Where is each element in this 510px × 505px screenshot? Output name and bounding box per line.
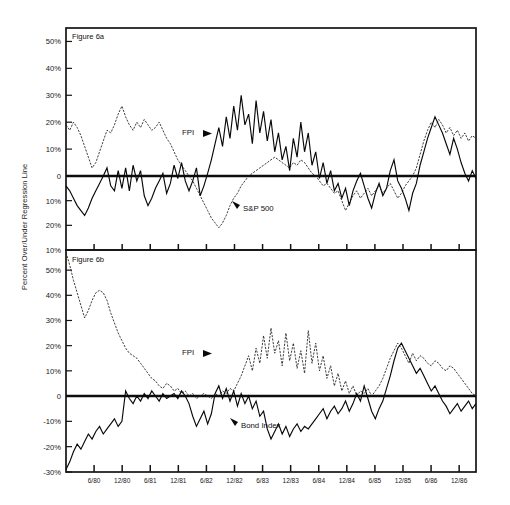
panel-b-label: Figure 6b — [72, 255, 104, 264]
panel-a-sp500-label: S&P 500 — [243, 204, 274, 213]
arrow-left-icon — [230, 418, 238, 426]
y-tick-label: 20% — [46, 342, 61, 351]
panel-b-series-bond-index-line — [66, 343, 476, 469]
panel-a-y-ticks: 50%40%30%20%10%010%20%10% — [46, 37, 72, 255]
y-tick-label: -30% — [43, 468, 61, 477]
x-tick-label: 6/86 — [425, 477, 438, 484]
y-axis-title: Percent Over/Under Regression Line — [20, 164, 29, 290]
x-tick-label: 12/84 — [339, 477, 356, 484]
y-tick-label: -20% — [43, 443, 61, 452]
y-tick-label: 10% — [46, 145, 61, 154]
x-tick-label: 12/85 — [395, 477, 412, 484]
panel-b-fpi-annotation: FPI — [182, 348, 212, 357]
x-tick-label: 12/83 — [283, 477, 300, 484]
panel-b-x-tick-labels: 6/8012/806/8112/816/8212/826/8312/836/84… — [88, 477, 468, 484]
figure-root: Percent Over/Under Regression Line Figur… — [0, 0, 510, 505]
x-tick-label: 6/81 — [144, 477, 157, 484]
panel-a-fpi-annotation: FPI — [182, 128, 212, 137]
y-axis-title-group: Percent Over/Under Regression Line — [20, 164, 29, 290]
x-tick-label: 12/81 — [170, 477, 187, 484]
y-tick-label: 20% — [46, 221, 61, 230]
y-tick-label: 10% — [46, 246, 61, 255]
y-tick-label: 0 — [57, 172, 61, 181]
panel-a: Figure 6a 50%40%30%20%10%010%20%10% FPI … — [46, 28, 476, 255]
panel-b-fpi-label: FPI — [182, 348, 194, 357]
x-tick-label: 6/83 — [256, 477, 269, 484]
arrow-left-icon — [232, 201, 240, 209]
x-tick-label: 6/85 — [369, 477, 382, 484]
y-tick-label: -10% — [43, 417, 61, 426]
y-tick-label: 40% — [46, 64, 61, 73]
y-tick-label: 10% — [46, 197, 61, 206]
panel-b-bond-annotation: Bond Index — [230, 418, 281, 430]
x-tick-label: 6/80 — [88, 477, 101, 484]
y-tick-label: 50% — [46, 37, 61, 46]
panel-b-bond-label: Bond Index — [241, 421, 281, 430]
y-tick-label: 30% — [46, 316, 61, 325]
panel-a-x-ticks — [94, 244, 459, 250]
y-tick-label: 50% — [46, 266, 61, 275]
y-tick-label: 0 — [57, 392, 61, 401]
panel-b-series-fpi-line — [66, 253, 476, 399]
x-tick-label: 12/82 — [226, 477, 243, 484]
arrow-right-icon — [203, 130, 212, 137]
x-tick-label: 12/80 — [114, 477, 131, 484]
y-tick-label: 20% — [46, 118, 61, 127]
panel-b: Figure 6b 50%40%30%20%10%0-10%-20%-30% 6… — [43, 250, 476, 484]
y-tick-label: 40% — [46, 291, 61, 300]
panel-b-x-ticks — [94, 465, 459, 472]
panel-a-fpi-label: FPI — [182, 128, 194, 137]
y-tick-label: 10% — [46, 367, 61, 376]
y-tick-label: 30% — [46, 91, 61, 100]
x-tick-label: 6/82 — [200, 477, 213, 484]
arrow-right-icon — [203, 350, 212, 357]
panel-a-series-fpi-line — [66, 95, 476, 215]
panel-a-frame — [66, 28, 476, 250]
panel-a-sp500-annotation: S&P 500 — [232, 201, 274, 213]
x-tick-label: 12/86 — [451, 477, 468, 484]
dual-panel-line-chart: Percent Over/Under Regression Line Figur… — [0, 0, 510, 505]
panel-a-label: Figure 6a — [72, 32, 105, 41]
panel-b-y-ticks: 50%40%30%20%10%0-10%-20%-30% — [43, 266, 72, 477]
x-tick-label: 6/84 — [312, 477, 325, 484]
